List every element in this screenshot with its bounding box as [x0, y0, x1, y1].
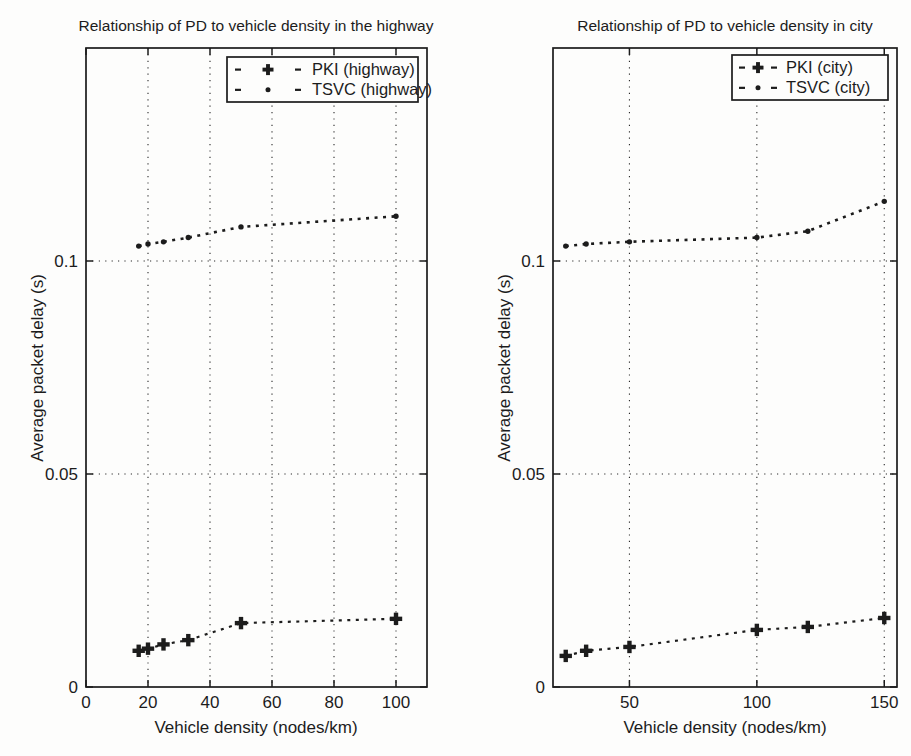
- gridlines: [86, 48, 427, 687]
- y-tick-label: 0: [69, 678, 78, 697]
- x-tick-label: 80: [325, 693, 344, 712]
- y-tick-labels: 00.050.1: [512, 252, 545, 697]
- plus-marker: [235, 617, 247, 629]
- legend: PKI (city)TSVC (city): [732, 55, 888, 100]
- plus-marker: [751, 624, 763, 636]
- series-line: [566, 201, 885, 246]
- plus-marker: [390, 613, 402, 625]
- x-tick-label: 100: [382, 693, 410, 712]
- x-tick-label: 0: [81, 693, 90, 712]
- dot-marker: [393, 214, 398, 219]
- tick-marks: [86, 48, 427, 687]
- dot-marker: [805, 228, 810, 233]
- x-tick-labels: 020406080100: [81, 693, 410, 712]
- plus-marker: [142, 642, 154, 654]
- dot-marker: [563, 243, 568, 248]
- city-y-axis-label: Average packet delay (s): [495, 274, 514, 462]
- plus-marker: [560, 650, 572, 662]
- x-tick-labels: 50100150: [620, 693, 898, 712]
- highway-chart-title: Relationship of PD to vehicle density in…: [79, 17, 434, 34]
- city-chart-title: Relationship of PD to vehicle density in…: [577, 17, 873, 34]
- series-line: [139, 619, 396, 651]
- highway-x-axis-label: Vehicle density (nodes/km): [154, 718, 357, 737]
- dot-marker: [627, 239, 632, 244]
- city-chart: Relationship of PD to vehicle density in…: [455, 0, 911, 756]
- plus-marker: [623, 641, 635, 653]
- city-x-axis-label: Vehicle density (nodes/km): [623, 718, 826, 737]
- city-plot-area: 5010015000.050.1PKI (city)TSVC (city): [512, 48, 899, 712]
- series-tsvc-city: [563, 199, 887, 249]
- legend-label: PKI (city): [786, 58, 853, 76]
- highway-chart: Relationship of PD to vehicle density in…: [0, 0, 456, 756]
- dot-marker: [583, 241, 588, 246]
- x-tick-label: 150: [870, 693, 898, 712]
- x-tick-label: 20: [139, 693, 158, 712]
- x-tick-label: 50: [620, 693, 639, 712]
- legend: PKI (highway)TSVC (highway): [227, 57, 432, 102]
- x-tick-label: 40: [201, 693, 220, 712]
- highway-y-axis-label: Average packet delay (s): [28, 274, 47, 462]
- legend-label: TSVC (city): [786, 78, 870, 96]
- gridlines: [553, 48, 897, 687]
- dot-marker: [756, 85, 761, 90]
- y-tick-label: 0.1: [521, 252, 545, 271]
- legend-label: PKI (highway): [312, 60, 415, 78]
- highway-plot-area: 02040608010000.050.1PKI (highway)TSVC (h…: [45, 48, 432, 712]
- dot-marker: [882, 199, 887, 204]
- axes-box: [553, 48, 897, 687]
- series-pki-city: [560, 612, 891, 662]
- y-tick-label: 0.1: [54, 252, 78, 271]
- y-tick-label: 0.05: [45, 465, 78, 484]
- plus-marker: [802, 621, 814, 633]
- dot-marker: [266, 87, 271, 92]
- series-line: [566, 618, 885, 656]
- plus-marker: [182, 634, 194, 646]
- series-tsvc-highway: [136, 214, 399, 249]
- plus-marker: [878, 612, 890, 624]
- plus-marker: [157, 638, 169, 650]
- plus-marker: [580, 645, 592, 657]
- dot-marker: [186, 235, 191, 240]
- series-pki-highway: [133, 613, 403, 657]
- scanned-figure: Relationship of PD to vehicle density in…: [0, 0, 911, 756]
- y-tick-label: 0.05: [512, 465, 545, 484]
- dot-marker: [136, 243, 141, 248]
- dot-marker: [145, 241, 150, 246]
- dot-marker: [238, 224, 243, 229]
- tick-marks: [553, 48, 897, 687]
- series-line: [139, 216, 396, 246]
- x-tick-label: 60: [263, 693, 282, 712]
- dot-marker: [161, 239, 166, 244]
- axes-box: [86, 48, 427, 687]
- legend-label: TSVC (highway): [312, 80, 432, 98]
- y-tick-label: 0: [536, 678, 545, 697]
- dot-marker: [754, 235, 759, 240]
- x-tick-label: 100: [743, 693, 771, 712]
- y-tick-labels: 00.050.1: [45, 252, 78, 697]
